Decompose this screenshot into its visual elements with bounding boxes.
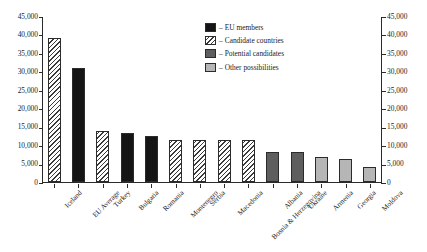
bar-ukraine <box>291 152 304 182</box>
axis-line-right <box>381 17 382 184</box>
bar-chart: 05,00010,00015,00020,00025,00030,00035,0… <box>0 0 427 252</box>
y-tick-mark-right-1 <box>382 165 386 166</box>
x-tick-mark-7 <box>224 184 225 188</box>
y-tick-label-left-1: 5,000 <box>0 160 38 168</box>
y-tick-label-right-5: 25,000 <box>387 87 427 95</box>
x-tick-mark-9 <box>273 184 274 188</box>
bar-eu-average <box>72 68 85 182</box>
y-tick-label-left-2: 10,000 <box>0 142 38 150</box>
y-tick-label-right-3: 15,000 <box>387 123 427 131</box>
y-tick-label-left-0: 0 <box>0 179 38 187</box>
x-tick-mark-8 <box>248 184 249 188</box>
y-tick-label-right-6: 30,000 <box>387 68 427 76</box>
y-tick-label-right-1: 5,000 <box>387 160 427 168</box>
legend-label-candidate: Candidate countries <box>225 36 284 45</box>
legend-swatch-eu <box>205 23 216 32</box>
x-tick-mark-2 <box>103 184 104 188</box>
y-tick-label-right-9: 45,000 <box>387 13 427 21</box>
bar-bulgaria <box>121 133 134 182</box>
legend-dash-2: – <box>216 49 225 58</box>
bar-bosnia-herzegovina <box>242 140 255 182</box>
x-category-label-0: Iceland <box>63 189 84 210</box>
y-tick-mark-right-2 <box>382 146 386 147</box>
y-tick-mark-right-6 <box>382 72 386 73</box>
axis-line-left <box>42 17 43 184</box>
legend-item-eu: –EU members <box>205 21 325 34</box>
y-tick-label-right-0: 0 <box>387 179 427 187</box>
x-tick-mark-0 <box>54 184 55 188</box>
x-tick-mark-11 <box>321 184 322 188</box>
bar-romania <box>145 136 158 182</box>
x-category-label-11: Armenia <box>332 189 355 212</box>
x-tick-mark-4 <box>151 184 152 188</box>
bar-iceland <box>48 38 61 182</box>
legend-label-potential: Potential candidates <box>225 49 284 58</box>
x-category-label-4: Romania <box>162 189 186 213</box>
bar-turkey <box>96 131 109 182</box>
legend-item-candidate: –Candidate countries <box>205 34 325 47</box>
y-tick-mark-right-3 <box>382 128 386 129</box>
x-category-label-7: Macedonia <box>236 189 264 217</box>
legend-label-other: Other possibilities <box>225 63 279 72</box>
y-tick-mark-right-4 <box>382 109 386 110</box>
x-tick-mark-13 <box>370 184 371 188</box>
x-tick-mark-3 <box>127 184 128 188</box>
y-tick-label-right-7: 35,000 <box>387 50 427 58</box>
bar-serbia <box>193 140 206 182</box>
legend-label-eu: EU members <box>225 23 264 32</box>
y-tick-label-left-3: 15,000 <box>0 123 38 131</box>
legend-dash-0: – <box>216 23 225 32</box>
y-tick-label-left-6: 30,000 <box>0 68 38 76</box>
y-tick-mark-right-0 <box>382 183 386 184</box>
legend-dash-3: – <box>216 63 225 72</box>
x-tick-mark-12 <box>346 184 347 188</box>
bar-montenegro <box>169 140 182 182</box>
bar-macedonia <box>218 140 231 182</box>
x-tick-mark-1 <box>78 184 79 188</box>
bar-albania <box>266 152 279 182</box>
bar-moldova <box>363 167 376 182</box>
y-tick-label-right-2: 10,000 <box>387 142 427 150</box>
y-tick-label-left-9: 45,000 <box>0 13 38 21</box>
legend-swatch-potential <box>205 49 216 58</box>
y-tick-mark-right-9 <box>382 17 386 18</box>
y-tick-label-left-4: 20,000 <box>0 105 38 113</box>
legend-swatch-candidate <box>205 36 216 45</box>
y-tick-label-right-8: 40,000 <box>387 31 427 39</box>
y-tick-label-left-7: 35,000 <box>0 50 38 58</box>
x-category-label-12: Georgia <box>355 189 377 211</box>
y-tick-mark-right-5 <box>382 91 386 92</box>
x-tick-mark-10 <box>297 184 298 188</box>
bar-armenia <box>315 157 328 182</box>
legend-item-potential: –Potential candidates <box>205 47 325 60</box>
chart-legend: –EU members–Candidate countries–Potentia… <box>205 21 325 74</box>
x-tick-mark-6 <box>200 184 201 188</box>
axis-line-bottom <box>42 182 382 183</box>
y-tick-label-left-5: 25,000 <box>0 87 38 95</box>
y-tick-label-left-8: 40,000 <box>0 31 38 39</box>
x-category-label-3: Bulgaria <box>137 189 160 212</box>
y-tick-mark-right-8 <box>382 35 386 36</box>
legend-swatch-other <box>205 63 216 72</box>
x-tick-mark-5 <box>176 184 177 188</box>
bar-georgia <box>339 159 352 182</box>
legend-dash-1: – <box>216 36 225 45</box>
y-tick-label-right-4: 20,000 <box>387 105 427 113</box>
y-tick-mark-right-7 <box>382 54 386 55</box>
legend-item-other: –Other possibilities <box>205 61 325 74</box>
x-category-label-13: Moldova <box>380 189 404 213</box>
